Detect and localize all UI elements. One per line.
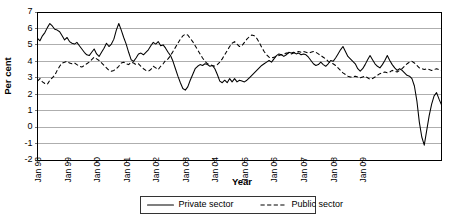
xtick-label-jan-07: Jan 07 (299, 157, 309, 183)
legend-label-private-sector: Private sector (179, 199, 234, 209)
ytick-label-4: 4 (27, 56, 32, 66)
legend-label-public-sector: Public sector (292, 199, 344, 209)
chart-legend: Private sectorPublic sector (141, 197, 344, 214)
line-chart: 76543210-1-2 Jan 98Jan 99Jan 00Jan 01Jan… (0, 0, 455, 224)
xtick-label-jan-02: Jan 02 (151, 157, 161, 183)
x-axis-ticks: Jan 98Jan 99Jan 00Jan 01Jan 02Jan 03Jan … (33, 157, 368, 183)
x-axis-title: Year (232, 176, 252, 187)
gridlines (38, 12, 442, 144)
axis-lines (38, 12, 442, 160)
xtick-label-jan-09: Jan 09 (358, 157, 368, 183)
ytick-label-3: 3 (27, 72, 32, 82)
ytick-label-6: 6 (27, 23, 32, 33)
y-axis-ticks: 76543210-1-2 (24, 6, 37, 164)
xtick-label-jan-00: Jan 00 (92, 157, 102, 183)
xtick-label-jan-06: Jan 06 (269, 157, 279, 183)
ytick-label-1: 1 (27, 105, 32, 115)
ytick-label--1: -1 (24, 138, 32, 148)
ytick-label-0: 0 (27, 121, 32, 131)
xtick-label-jan-99: Jan 99 (63, 157, 73, 183)
ytick-label-2: 2 (27, 89, 32, 99)
ytick-label-5: 5 (27, 39, 32, 49)
ytick-label-7: 7 (27, 6, 32, 16)
xtick-label-jan-08: Jan 08 (329, 157, 339, 183)
ytick-label--2: -2 (24, 154, 32, 164)
xtick-label-jan-98: Jan 98 (33, 157, 43, 183)
chart-container: 76543210-1-2 Jan 98Jan 99Jan 00Jan 01Jan… (0, 0, 455, 224)
xtick-label-jan-01: Jan 01 (122, 157, 132, 183)
xtick-label-jan-03: Jan 03 (181, 157, 191, 183)
series-line-public-sector (38, 34, 442, 84)
y-axis-title: Per cent (2, 56, 13, 94)
xtick-label-jan-04: Jan 04 (210, 157, 220, 183)
